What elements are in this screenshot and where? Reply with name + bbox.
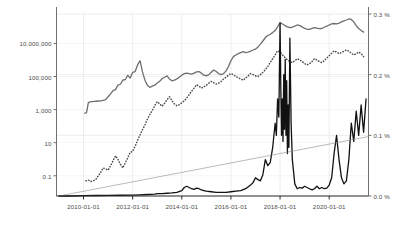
horizontal-gridlines: [57, 14, 369, 196]
data-series-layer: [59, 19, 369, 196]
vertical-gridlines: [84, 14, 330, 196]
right-axis-tick-label: 0.2 %: [374, 71, 390, 78]
left-axis-tick-label: 1,000: [36, 106, 52, 113]
left-axis-tick-label: 100,000: [28, 73, 51, 80]
series-dotted-gray: [86, 50, 364, 182]
right-axis-tick-label: 0.3 %: [374, 11, 390, 18]
left-axis-tick-label: 0.1: [43, 172, 52, 179]
x-axis-tick-label: 2020-01-01: [313, 203, 346, 210]
chart-plot-area: [0, 0, 412, 229]
right-axis-tick-label: 0.0 %: [374, 193, 390, 200]
x-axis-tick-label: 2014-01-01: [165, 203, 198, 210]
series-solid-gray: [85, 19, 364, 113]
left-axis-tick-label: 10: [44, 139, 51, 146]
x-axis-tick-label: 2010-01-01: [67, 203, 100, 210]
x-axis-tick-label: 2012-01-01: [116, 203, 149, 210]
right-axis-tick-label: 0.1 %: [374, 132, 390, 139]
chart-container: 10,000,000100,0001,000100.1 0.3 %0.2 %0.…: [0, 0, 412, 229]
x-axis-tick-label: 2018-01-01: [264, 203, 297, 210]
left-axis-tick-label: 10,000,000: [20, 40, 52, 47]
x-axis-tick-label: 2016-01-01: [215, 203, 248, 210]
